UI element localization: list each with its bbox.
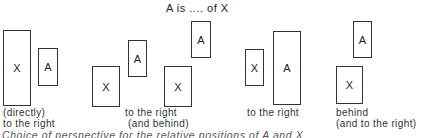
box-x: X xyxy=(3,30,31,106)
panel-label-line1: to the right xyxy=(247,107,299,118)
panel-label-line1: behind xyxy=(336,107,368,118)
box-a: A xyxy=(128,40,147,77)
panel-label-line2: (and to the right) xyxy=(336,118,417,129)
box-a: A xyxy=(273,31,301,105)
box-a: A xyxy=(191,21,211,58)
panel-label-line1: to the right xyxy=(125,107,177,118)
box-a: A xyxy=(38,48,58,86)
panel-label-line2: (and behind) xyxy=(128,118,189,129)
box-x: X xyxy=(164,66,192,107)
figure-caption: Choice of perspective for the relative p… xyxy=(2,129,303,138)
panel-label-line1: (directly) xyxy=(3,107,45,118)
box-x: X xyxy=(336,66,363,104)
diagram-title: A is .... of X xyxy=(166,2,229,14)
panel-label-line2: to the right xyxy=(3,118,55,129)
box-x: X xyxy=(92,66,120,107)
box-x: X xyxy=(245,49,264,86)
box-a: A xyxy=(353,21,372,58)
